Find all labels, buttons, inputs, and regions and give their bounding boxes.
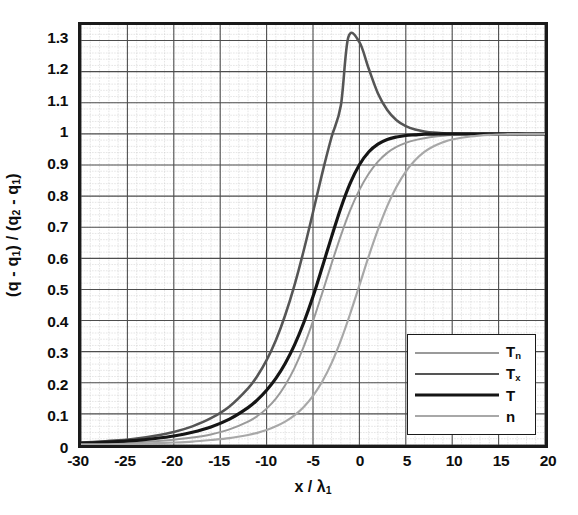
legend-item: Tn — [415, 344, 527, 361]
legend-label: Tn — [506, 344, 521, 361]
y-tick-label: 1.2 — [47, 60, 68, 78]
y-tick-label: 0.5 — [47, 281, 68, 299]
x-tick-label: 15 — [493, 452, 510, 470]
y-tick-label: 0.6 — [47, 250, 68, 268]
y-tick-label: 0.8 — [47, 187, 68, 205]
y-tick-label: 0.1 — [47, 407, 68, 425]
legend-label: Tx — [506, 366, 520, 383]
x-tick-label: -30 — [67, 452, 89, 470]
y-tick-label: 1 — [60, 123, 68, 141]
legend-label: n — [506, 409, 515, 424]
y-tick-label: 0.3 — [47, 344, 68, 362]
legend-item: n — [415, 408, 527, 425]
x-tick-label: 20 — [540, 452, 557, 470]
x-tick-label: 0 — [356, 452, 364, 470]
x-axis-title-text: x / λ1 — [295, 478, 332, 495]
y-tick-label: 0.9 — [47, 155, 68, 173]
legend-label: T — [506, 388, 515, 403]
x-tick-label: -5 — [306, 452, 319, 470]
x-axis-ticks: -30-25-20-15-10-505101520 — [78, 452, 548, 476]
legend-item: T — [415, 387, 527, 404]
y-tick-label: 1.1 — [47, 92, 68, 110]
x-axis-title: x / λ1 — [78, 478, 548, 496]
x-tick-label: 5 — [403, 452, 411, 470]
x-tick-label: -25 — [114, 452, 136, 470]
figure-canvas: (q - q1) / (q2 - q1) 00.10.20.30.40.50.6… — [0, 0, 578, 515]
y-tick-label: 1.3 — [47, 29, 68, 47]
chart-legend: TnTxTn — [407, 334, 536, 435]
y-tick-label: 0.2 — [47, 376, 68, 394]
y-axis-ticks: 00.10.20.30.40.50.60.70.80.911.11.21.3 — [0, 22, 74, 448]
x-tick-label: -10 — [255, 452, 277, 470]
legend-item: Tx — [415, 365, 527, 382]
x-tick-label: -20 — [161, 452, 183, 470]
x-tick-label: 10 — [446, 452, 463, 470]
y-tick-label: 0.7 — [47, 218, 68, 236]
x-tick-label: -15 — [208, 452, 230, 470]
y-tick-label: 0.4 — [47, 313, 68, 331]
